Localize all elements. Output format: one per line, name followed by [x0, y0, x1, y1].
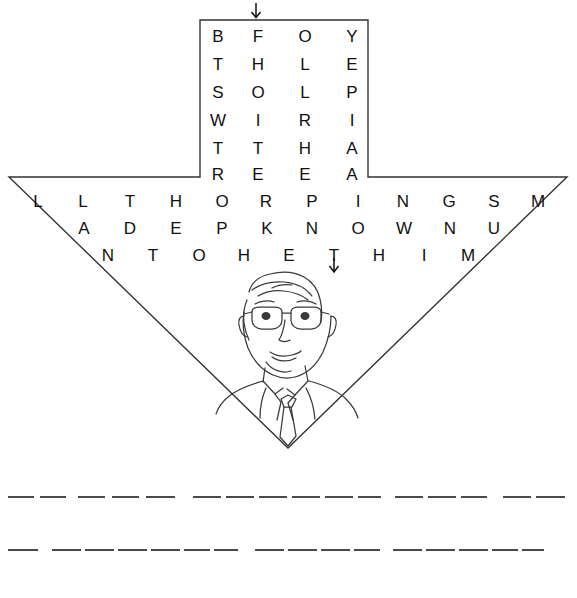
answer-blank[interactable]	[193, 496, 221, 498]
wide-letter: I	[348, 193, 368, 210]
funnel-outline	[0, 0, 577, 598]
neck-letter: E	[295, 166, 315, 183]
answer-blank[interactable]	[226, 496, 254, 498]
answer-blank[interactable]	[395, 496, 423, 498]
neck-letter: O	[295, 28, 315, 45]
wide-letter: E	[279, 247, 299, 264]
answer-blank[interactable]	[255, 549, 284, 551]
answer-blank[interactable]	[522, 549, 544, 551]
wide-letter: N	[302, 220, 322, 237]
answer-blank[interactable]	[426, 549, 455, 551]
neck-letter: T	[208, 140, 228, 157]
neck-letter: L	[295, 84, 315, 101]
wide-letter: M	[528, 193, 548, 210]
answer-blank[interactable]	[151, 549, 180, 551]
neck-letter: T	[248, 140, 268, 157]
neck-letter: B	[208, 28, 228, 45]
answer-blank[interactable]	[146, 496, 175, 498]
answer-blank[interactable]	[118, 549, 147, 551]
neck-letter: E	[342, 56, 362, 73]
neck-letter: T	[208, 56, 228, 73]
wide-letter: M	[458, 247, 478, 264]
wide-letter: P	[302, 193, 322, 210]
wide-letter: O	[212, 193, 232, 210]
answer-blank[interactable]	[184, 549, 210, 551]
wide-letter: O	[189, 247, 209, 264]
wide-letter: D	[120, 220, 140, 237]
neck-letter: P	[342, 84, 362, 101]
puzzle-page: B F O Y T H L E S O L P W I R I T T H A …	[0, 0, 577, 598]
answer-blank[interactable]	[288, 549, 317, 551]
wide-letter: O	[348, 220, 368, 237]
answer-blank[interactable]	[459, 549, 488, 551]
wide-letter: W	[394, 220, 414, 237]
neck-letter: H	[248, 56, 268, 73]
answer-blank[interactable]	[85, 549, 114, 551]
wide-letter: N	[393, 193, 413, 210]
answer-blank[interactable]	[8, 549, 38, 551]
neck-letter: R	[208, 166, 228, 183]
wide-letter: K	[257, 220, 277, 237]
wide-letter: L	[28, 193, 48, 210]
answer-blank[interactable]	[40, 496, 66, 498]
wide-letter: L	[73, 193, 93, 210]
down-arrow-top-icon	[252, 3, 261, 18]
wide-letter: T	[324, 247, 344, 264]
wide-letter: H	[234, 247, 254, 264]
answer-blank[interactable]	[112, 496, 139, 498]
answer-line-1[interactable]	[0, 490, 577, 504]
answer-blank[interactable]	[358, 496, 381, 498]
neck-letter: L	[295, 56, 315, 73]
wide-letter: T	[120, 193, 140, 210]
neck-letter: S	[208, 84, 228, 101]
answer-blank[interactable]	[503, 496, 531, 498]
neck-letter: E	[248, 166, 268, 183]
wide-letter: I	[414, 247, 434, 264]
wide-letter: R	[256, 193, 276, 210]
wide-letter: G	[439, 193, 459, 210]
neck-letter: I	[342, 112, 362, 129]
wide-letter: P	[212, 220, 232, 237]
wide-letter: S	[484, 193, 504, 210]
wide-letter: A	[74, 220, 94, 237]
neck-letter: R	[295, 112, 315, 129]
answer-blank[interactable]	[461, 496, 487, 498]
neck-letter: F	[248, 28, 268, 45]
answer-blank[interactable]	[8, 496, 34, 498]
wide-letter: H	[166, 193, 186, 210]
answer-blank[interactable]	[536, 496, 565, 498]
answer-blank[interactable]	[492, 549, 518, 551]
answer-blank[interactable]	[78, 496, 105, 498]
neck-letter: O	[248, 84, 268, 101]
answer-line-2[interactable]	[0, 543, 577, 557]
answer-blank[interactable]	[214, 549, 238, 551]
wide-letter: E	[166, 220, 186, 237]
answer-blank[interactable]	[292, 496, 320, 498]
neck-letter: H	[295, 140, 315, 157]
answer-blank[interactable]	[428, 496, 456, 498]
wide-letter: T	[143, 247, 163, 264]
neck-letter: A	[342, 166, 362, 183]
answer-blank[interactable]	[354, 549, 380, 551]
wide-letter: N	[440, 220, 460, 237]
answer-blank[interactable]	[393, 549, 422, 551]
answer-blank[interactable]	[321, 549, 350, 551]
neck-letter: W	[208, 112, 228, 129]
neck-letter: Y	[342, 28, 362, 45]
neck-letter: A	[342, 140, 362, 157]
wide-letter: N	[98, 247, 118, 264]
answer-blank[interactable]	[52, 549, 81, 551]
wide-letter: H	[369, 247, 389, 264]
answer-blank[interactable]	[325, 496, 353, 498]
neck-letter: I	[248, 112, 268, 129]
answer-blank[interactable]	[259, 496, 287, 498]
wide-letter: U	[484, 220, 504, 237]
